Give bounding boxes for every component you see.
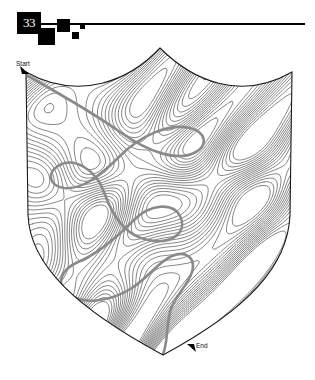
maze-puzzle-page: 33: [0, 0, 315, 380]
decorative-square-tiny: [80, 24, 85, 29]
decorative-square-medium: [57, 19, 70, 32]
start-label: Start: [16, 60, 30, 67]
end-arrow-icon: [187, 344, 196, 352]
decorative-square-small: [72, 32, 79, 39]
maze-svg: [0, 40, 315, 380]
start-arrow-icon: [20, 66, 29, 74]
maze-container: [0, 40, 315, 380]
maze-walls: [0, 40, 315, 364]
end-label: End: [196, 342, 208, 349]
